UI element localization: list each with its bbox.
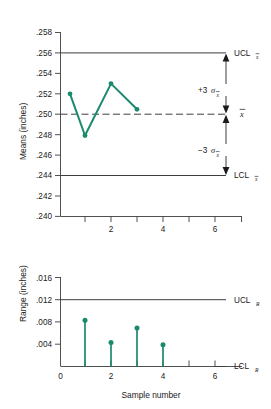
range-xtick-label-6: 6	[213, 372, 218, 381]
xbar-ytick-label-5: .248	[36, 131, 52, 140]
range-ytick-label-1: .012	[36, 296, 52, 305]
xbar-xtick-label-4: 4	[161, 225, 166, 234]
xbar-ytick-label-6: .246	[36, 151, 52, 160]
range-xtick-label-2: 2	[109, 372, 114, 381]
xbar-ytick-label-3: .252	[36, 90, 52, 99]
range-lcl-label: LCL	[234, 362, 249, 371]
range-y-axis-title: Range (inches)	[18, 265, 28, 322]
xbar-lcl-label: LCL	[234, 171, 249, 180]
xbar-data-point-2	[83, 133, 88, 138]
xbar-ytick-label-2: .254	[36, 69, 52, 78]
xbar-xtick-label-6: 6	[213, 225, 218, 234]
xbar-lcl-subscript: x	[254, 176, 258, 182]
upper-sigma-subscript: x	[216, 92, 220, 98]
range-data-point-4	[161, 342, 166, 347]
control-chart-figure: .258 .256 .254 .252 .250 .248 .246 .244 …	[0, 0, 271, 409]
lower-sigma-subscript: x	[216, 152, 220, 158]
xbar-y-axis-title: Means (inches)	[18, 103, 28, 160]
xbar-ytick-label-9: .240	[36, 212, 52, 221]
upper-sigma-text: +3	[198, 86, 208, 95]
range-x-axis-title: Sample number	[121, 390, 180, 400]
xbar-data-point-4	[135, 107, 140, 112]
range-ytick-label-2: .008	[36, 318, 52, 327]
range-xtick-label-4: 4	[161, 372, 166, 381]
range-xtick-label-0: 0	[58, 372, 63, 381]
xbar-ytick-label-4: .250	[36, 110, 52, 119]
range-ytick-label-0: .016	[36, 274, 52, 283]
xbar-r-control-chart-svg: .258 .256 .254 .252 .250 .248 .246 .244 …	[0, 0, 271, 409]
range-data-point-2	[109, 340, 114, 345]
xbar-center-label: x	[239, 110, 244, 119]
range-lcl-subscript: R	[254, 367, 259, 373]
xbar-data-point-3	[109, 81, 114, 86]
xbar-xtick-label-2: 2	[109, 225, 114, 234]
xbar-ucl-label: UCL	[234, 49, 251, 58]
range-ucl-label: UCL	[234, 296, 251, 305]
xbar-ytick-label-7: .244	[36, 171, 52, 180]
xbar-data-point-1	[68, 91, 73, 96]
lower-sigma-text: −3	[198, 146, 208, 155]
range-data-point-3	[135, 326, 140, 331]
xbar-ucl-subscript: x	[255, 54, 259, 60]
range-ytick-label-3: .004	[36, 340, 52, 349]
range-data-point-1	[83, 318, 88, 323]
xbar-ytick-label-1: .256	[36, 49, 52, 58]
range-ucl-subscript: R	[255, 301, 260, 307]
xbar-ytick-label-0: .258	[36, 28, 52, 37]
xbar-ytick-label-8: .242	[36, 192, 52, 201]
